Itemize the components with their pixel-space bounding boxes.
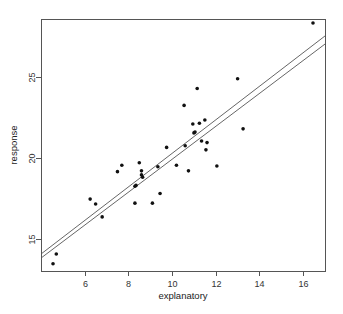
x-tick-label: 14: [254, 279, 264, 289]
data-point: [175, 163, 179, 167]
x-tick-label: 6: [83, 279, 88, 289]
data-point: [120, 163, 124, 167]
data-point: [100, 215, 104, 219]
data-point: [156, 165, 160, 169]
data-point: [183, 144, 187, 148]
data-point: [88, 197, 92, 201]
data-point: [165, 146, 169, 150]
plot-canvas: 6810121416 152025 explanatory response: [0, 0, 343, 314]
y-axis-ticks: 152025: [27, 72, 41, 244]
data-point: [158, 192, 162, 196]
data-point: [54, 252, 58, 256]
y-axis-label: response: [8, 125, 19, 164]
data-point: [205, 141, 209, 145]
data-point: [203, 118, 207, 122]
y-tick-label: 15: [27, 234, 37, 244]
y-tick-label: 25: [27, 72, 37, 82]
scatter-plot-figure: 6810121416 152025 explanatory response: [0, 0, 343, 314]
data-point: [236, 77, 240, 81]
data-point: [311, 21, 315, 25]
data-point: [215, 164, 219, 168]
data-point: [151, 201, 155, 205]
data-point: [134, 184, 138, 188]
x-axis-ticks: 6810121416: [83, 271, 309, 289]
data-point: [241, 127, 245, 131]
data-point: [200, 139, 204, 143]
data-point: [138, 161, 142, 165]
data-point: [191, 122, 195, 126]
data-point: [141, 176, 145, 180]
x-tick-label: 10: [167, 279, 177, 289]
data-points: [51, 21, 315, 265]
fit-line-1: [41, 36, 325, 254]
x-tick-label: 8: [126, 279, 131, 289]
data-point: [94, 202, 98, 206]
x-axis-label: explanatory: [158, 290, 207, 301]
x-tick-label: 16: [298, 279, 308, 289]
fit-line-2: [41, 44, 325, 258]
data-point: [133, 201, 137, 205]
data-point: [193, 130, 197, 134]
data-point: [204, 148, 208, 152]
x-tick-label: 12: [211, 279, 221, 289]
regression-lines: [41, 36, 325, 258]
data-point: [140, 169, 144, 173]
data-point: [51, 262, 55, 266]
data-point: [195, 87, 199, 91]
y-tick-label: 20: [27, 153, 37, 163]
data-point: [116, 170, 120, 174]
data-point: [182, 104, 186, 108]
data-point: [187, 169, 191, 173]
data-point: [198, 121, 202, 125]
